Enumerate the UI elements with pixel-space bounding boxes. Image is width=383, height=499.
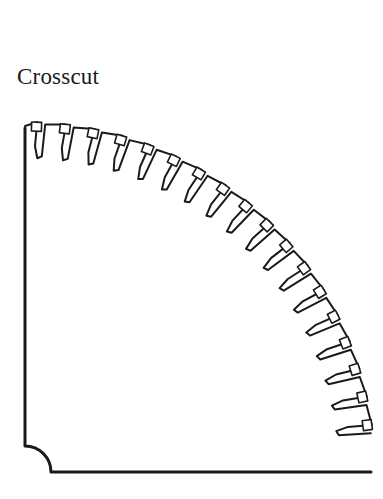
carbide-tip (357, 391, 368, 403)
carbide-tip (313, 285, 326, 298)
carbide-tip (349, 363, 361, 375)
carbide-tip (141, 143, 154, 155)
carbide-tip (167, 154, 180, 166)
carbide-tip (87, 128, 99, 139)
carbide-tip (339, 336, 351, 349)
carbide-tip (59, 124, 70, 134)
carbide-tip (192, 167, 205, 180)
blade-body (25, 122, 372, 472)
carbide-tip (115, 134, 127, 145)
blade-straight-edges (25, 128, 371, 472)
carbide-tip (327, 310, 340, 323)
carbide-tip (216, 182, 229, 195)
carbide-tip (362, 419, 372, 430)
crosscut-saw-blade-diagram (0, 0, 383, 499)
carbide-tip (297, 262, 310, 275)
carbide-tip (31, 122, 41, 131)
